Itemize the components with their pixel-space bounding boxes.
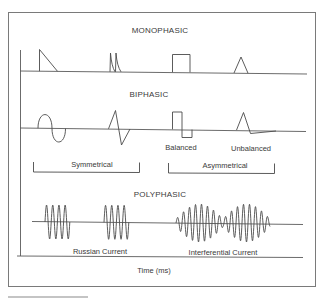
x-axis-label: Time (ms) [137, 266, 171, 275]
waveform-sawtooth-pulse [40, 50, 58, 72]
section-title-polyphasic: POLYPHASIC [134, 190, 187, 199]
waveform-triangular-pulse [234, 57, 248, 73]
baseline-polyphasic [32, 222, 303, 225]
label-interferential-current: Interferential Current [189, 248, 259, 257]
label-russian-current: Russian Current [73, 247, 128, 256]
x-axis [17, 256, 303, 258]
section-title-biphasic: BIPHASIC [130, 90, 169, 99]
label-asymmetrical: Asymmetrical [202, 161, 247, 170]
baseline-biphasic [20, 128, 306, 132]
label-symmetrical: Symmetrical [71, 160, 113, 169]
waveform-triangular-biphasic [109, 111, 131, 146]
waveform-twin-spike [110, 53, 121, 72]
section-title-monophasic: MONOPHASIC [132, 26, 189, 35]
label-balanced: Balanced [165, 143, 196, 152]
baseline-monophasic [20, 71, 307, 74]
waveform-rectangular-pulse [173, 55, 191, 73]
label-unbalanced: Unbalanced [231, 144, 271, 153]
waveform-diagram: MONOPHASIC BIPHASIC Balanced Unbalanced … [0, 0, 323, 298]
waveform-balanced-rectangular [173, 112, 193, 138]
